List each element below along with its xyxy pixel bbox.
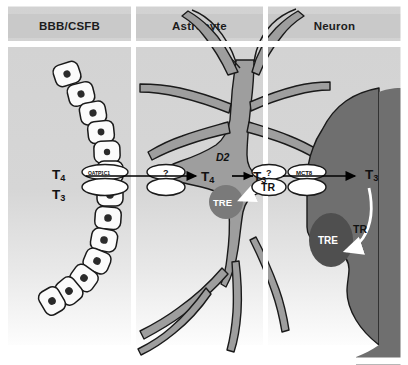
transporter-mct8-lower bbox=[288, 179, 326, 196]
transporter-astro-entry-lower bbox=[147, 179, 185, 196]
neuron-soma bbox=[307, 88, 379, 345]
transporter-label-astro-entry: ? bbox=[163, 168, 169, 178]
label-tr-astrocyte: TR bbox=[261, 182, 275, 193]
label-deiodinase-d2: D2 bbox=[216, 152, 229, 163]
transporter-label-mct8: MCT8 bbox=[296, 170, 312, 176]
label-t3-neuron: T3 bbox=[365, 168, 378, 183]
endothelial-cell bbox=[94, 141, 121, 164]
astrocyte-process-lower-left bbox=[140, 268, 228, 339]
thyroid-hormone-transport-diagram: BBB/CSFB Astrocyte Neuron bbox=[0, 0, 408, 365]
label-t4-astrocyte: T4 bbox=[201, 170, 214, 185]
astrocyte-process-lower-right bbox=[250, 237, 289, 332]
astrocyte-process-right-foot bbox=[247, 122, 318, 158]
label-tre-astrocyte: TRE bbox=[213, 198, 232, 208]
transporter-oatp1c1-lower bbox=[82, 179, 128, 196]
astrocyte-process-right-upper bbox=[250, 82, 330, 111]
label-tr-neuron: TR bbox=[353, 224, 367, 235]
endothelial-cell bbox=[94, 206, 121, 230]
astrocyte-process-left-upper bbox=[140, 84, 231, 113]
transporter-label-oatp1c1: OATP1C1 bbox=[88, 170, 110, 176]
label-t3-plasma: T3 bbox=[52, 188, 65, 203]
label-tre-neuron: TRE bbox=[318, 236, 338, 246]
label-t4-plasma: T4 bbox=[52, 168, 65, 183]
transporter-label-astro-exit: ? bbox=[266, 168, 272, 178]
